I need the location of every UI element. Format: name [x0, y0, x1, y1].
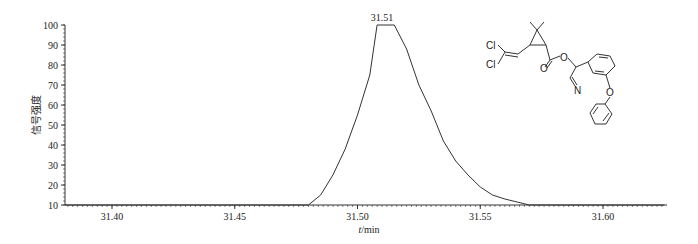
x-axis-title: t/min [358, 224, 379, 235]
x-tick-label: 31.50 [346, 211, 369, 222]
chlorine-label-2: Cl [486, 59, 495, 70]
y-tick-label: 100 [43, 20, 58, 31]
y-tick-label: 50 [48, 120, 58, 131]
x-tick-label: 31.45 [224, 211, 247, 222]
nitrogen-label: N [574, 85, 581, 96]
y-axis-title: 信号强度 [30, 95, 42, 135]
y-tick-label: 70 [48, 80, 58, 91]
x-tick-label: 31.60 [592, 211, 615, 222]
y-tick-label: 60 [48, 100, 58, 111]
chlorine-label-1: Cl [486, 40, 495, 51]
carbonyl-oxygen-label: O [540, 63, 548, 74]
y-tick-label: 90 [48, 40, 58, 51]
y-tick-label: 80 [48, 60, 58, 71]
ester-oxygen-label: O [560, 52, 568, 63]
molecule-structure-inset: Cl Cl O O N O [486, 22, 615, 124]
y-tick-label: 40 [48, 140, 58, 151]
y-tick-label: 20 [48, 180, 58, 191]
x-tick-label: 31.40 [101, 211, 124, 222]
chromatogram-chart: 102030405060708090100 31.4031.4531.5031.… [0, 0, 698, 244]
y-tick-label: 10 [48, 200, 58, 211]
y-tick-label: 30 [48, 160, 58, 171]
peak-annotation: 31.51 [371, 12, 394, 23]
ether-oxygen-label: O [606, 87, 614, 98]
signal-curve [65, 25, 664, 205]
x-tick-label: 31.55 [469, 211, 492, 222]
